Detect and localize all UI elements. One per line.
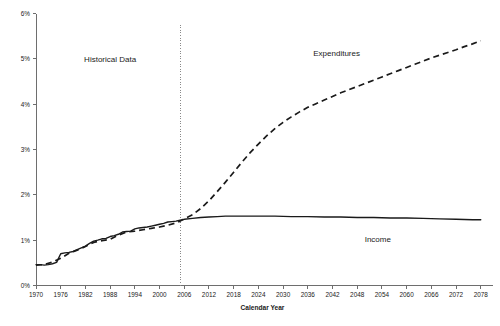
annotation-historical-data: Historical Data [84,55,137,64]
x-tick-label: 1988 [103,291,118,298]
x-tick-label: 2000 [152,291,167,298]
line-chart: 0%1%2%3%4%5%6% 1970197619821988199420002… [0,0,500,326]
y-tick-label: 6% [21,10,31,17]
x-tick-label: 2024 [251,291,266,298]
x-tick-label: 2066 [424,291,439,298]
x-tick-label: 2018 [227,291,242,298]
x-tick-label: 2030 [276,291,291,298]
x-axis-title: Calendar Year [241,304,285,311]
x-tick-label: 2054 [375,291,390,298]
y-tick-label: 3% [21,146,31,153]
chart-container: 0%1%2%3%4%5%6% 1970197619821988199420002… [0,0,500,326]
x-tick-label: 1982 [78,291,93,298]
annotation-expenditures: Expenditures [313,49,360,58]
y-tick-label: 5% [21,55,31,62]
x-tick-label: 1970 [29,291,44,298]
x-tick-label: 1994 [128,291,143,298]
x-tick-label: 2048 [350,291,365,298]
annotation-income: Income [365,235,392,244]
x-tick-label: 2060 [400,291,415,298]
chart-background [0,0,500,326]
x-tick-label: 2042 [325,291,340,298]
x-tick-label: 2072 [449,291,464,298]
x-tick-label: 2036 [301,291,316,298]
y-tick-label: 0% [21,282,31,289]
x-tick-label: 2078 [474,291,489,298]
x-tick-label: 2012 [202,291,217,298]
x-tick-label: 2006 [177,291,192,298]
y-tick-label: 4% [21,101,31,108]
y-tick-label: 2% [21,191,31,198]
x-tick-label: 1976 [54,291,69,298]
y-tick-label: 1% [21,237,31,244]
